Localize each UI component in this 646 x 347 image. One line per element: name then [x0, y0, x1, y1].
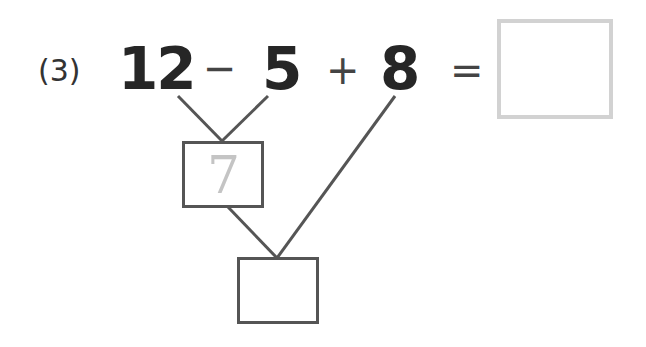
operand-5: 5: [262, 40, 300, 98]
intermediate-hint-value: 7: [207, 149, 240, 201]
minus-operator: −: [203, 48, 237, 88]
problem-label: (3): [38, 56, 81, 86]
intermediate-box[interactable]: 7: [182, 141, 264, 208]
answer-box[interactable]: [497, 19, 613, 119]
plus-operator: +: [326, 50, 360, 90]
line-intermediate-to-final: [228, 207, 277, 258]
equals-sign: =: [450, 50, 484, 90]
operand-12: 12: [118, 40, 195, 98]
operand-8: 8: [380, 40, 418, 98]
final-box[interactable]: [237, 257, 319, 324]
line-8-to-final: [277, 96, 395, 258]
